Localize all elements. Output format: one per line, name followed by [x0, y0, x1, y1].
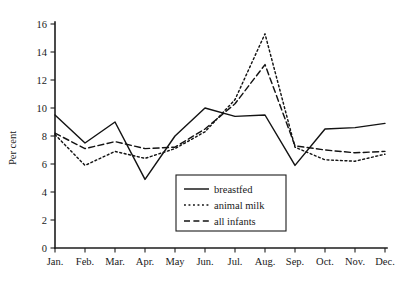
series-line-all-infants: [55, 65, 385, 153]
y-tick-label: 4: [42, 187, 48, 198]
x-axis-ticks: Jan.Feb.Mar.Apr.MayJun.Jul.Aug.Sep.Oct.N…: [47, 248, 395, 267]
series-line-breastfed: [55, 108, 385, 179]
y-tick-label: 6: [42, 159, 47, 170]
x-tick-label: Nov.: [345, 256, 365, 267]
x-tick-label: Jul.: [228, 256, 243, 267]
x-tick-label: Jun.: [196, 256, 213, 267]
x-tick-label: Oct.: [316, 256, 334, 267]
y-tick-label: 2: [42, 215, 47, 226]
y-tick-label: 14: [37, 47, 48, 58]
line-chart: 0246810121416 Jan.Feb.Mar.Apr.MayJun.Jul…: [0, 0, 419, 293]
y-axis-title: Per cent: [7, 131, 18, 165]
x-tick-label: May: [165, 256, 185, 267]
y-tick-label: 8: [42, 131, 47, 142]
legend-label-all-infants: all infants: [214, 216, 256, 227]
y-axis-ticks: 0246810121416: [37, 19, 56, 254]
x-tick-label: Sep.: [286, 256, 304, 267]
x-tick-label: Mar.: [105, 256, 125, 267]
x-tick-label: Apr.: [136, 256, 154, 267]
chart-figure: 0246810121416 Jan.Feb.Mar.Apr.MayJun.Jul…: [0, 0, 419, 293]
x-tick-label: Feb.: [76, 256, 94, 267]
x-tick-label: Jan.: [47, 256, 64, 267]
x-tick-label: Dec.: [375, 256, 395, 267]
y-tick-label: 12: [37, 75, 48, 86]
y-tick-label: 16: [37, 19, 48, 30]
chart-legend: breastfedanimal milkall infants: [176, 175, 286, 231]
y-tick-label: 10: [37, 103, 48, 114]
x-tick-label: Aug.: [255, 256, 276, 267]
series-group: [55, 34, 385, 180]
y-tick-label: 0: [42, 243, 47, 254]
legend-label-breastfed: breastfed: [214, 184, 253, 195]
legend-label-animal-milk: animal milk: [214, 200, 265, 211]
series-line-animal-milk: [55, 34, 385, 166]
